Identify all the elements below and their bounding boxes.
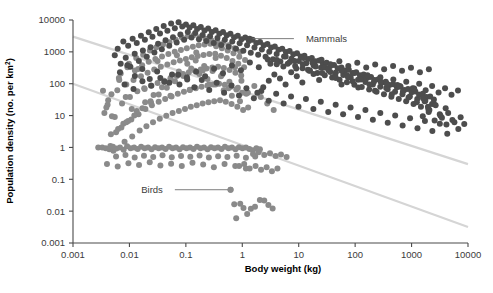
annotation-label-birds: Birds bbox=[141, 184, 163, 195]
data-point-mammals bbox=[221, 90, 227, 96]
data-point-birds bbox=[163, 113, 169, 119]
data-point-birds bbox=[181, 89, 187, 95]
data-point-mammals bbox=[149, 34, 155, 40]
data-point-birds bbox=[217, 97, 223, 103]
data-point-birds bbox=[162, 96, 168, 102]
y-tick-label: 10000 bbox=[39, 14, 65, 25]
annotation-label-mammals: Mammals bbox=[306, 33, 347, 44]
data-point-birds bbox=[233, 215, 239, 221]
data-point-mammals bbox=[260, 84, 266, 90]
data-point-mammals bbox=[202, 73, 208, 79]
data-point-birds bbox=[150, 154, 156, 160]
data-point-mammals bbox=[247, 60, 253, 66]
data-point-birds bbox=[229, 101, 235, 107]
annotation-marker bbox=[247, 36, 253, 42]
data-point-birds bbox=[141, 153, 147, 159]
data-point-mammals bbox=[229, 63, 235, 69]
data-point-mammals bbox=[355, 114, 361, 120]
data-point-birds bbox=[164, 62, 170, 68]
data-point-birds bbox=[252, 204, 258, 210]
data-point-mammals bbox=[157, 30, 163, 36]
data-point-mammals bbox=[288, 93, 294, 99]
data-point-birds bbox=[206, 81, 212, 87]
data-point-mammals bbox=[238, 67, 244, 73]
data-point-mammals bbox=[172, 25, 178, 31]
data-point-mammals bbox=[142, 37, 148, 43]
data-point-birds bbox=[100, 88, 106, 94]
data-point-birds bbox=[158, 64, 164, 70]
data-point-mammals bbox=[166, 80, 172, 86]
data-point-birds bbox=[206, 51, 212, 57]
data-point-mammals bbox=[455, 88, 461, 94]
data-point-mammals bbox=[316, 77, 322, 83]
data-point-birds bbox=[234, 104, 240, 110]
data-point-birds bbox=[221, 65, 227, 71]
data-point-birds bbox=[136, 162, 142, 168]
data-point-birds bbox=[157, 163, 163, 169]
data-point-mammals bbox=[295, 104, 301, 110]
data-point-mammals bbox=[193, 69, 199, 75]
x-tick-label: 10 bbox=[293, 249, 304, 260]
data-point-mammals bbox=[389, 91, 395, 97]
data-point-birds bbox=[241, 161, 247, 167]
data-point-mammals bbox=[294, 73, 300, 79]
data-point-mammals bbox=[120, 39, 126, 45]
data-point-mammals bbox=[364, 72, 370, 78]
data-point-birds bbox=[188, 66, 194, 72]
data-point-birds bbox=[213, 55, 219, 61]
data-point-mammals bbox=[184, 76, 190, 82]
data-point-mammals bbox=[177, 32, 183, 38]
data-point-mammals bbox=[392, 113, 398, 119]
data-point-birds bbox=[273, 153, 279, 159]
data-point-birds bbox=[253, 163, 259, 169]
data-point-mammals bbox=[134, 40, 140, 46]
data-point-mammals bbox=[130, 86, 136, 92]
data-point-mammals bbox=[381, 91, 387, 97]
data-point-mammals bbox=[266, 78, 272, 84]
data-point-birds bbox=[116, 77, 122, 83]
data-point-birds bbox=[237, 98, 243, 104]
data-point-birds bbox=[229, 93, 235, 99]
data-point-mammals bbox=[336, 58, 342, 64]
data-point-mammals bbox=[206, 87, 212, 93]
data-point-mammals bbox=[174, 40, 180, 46]
data-point-birds bbox=[190, 44, 196, 50]
data-point-mammals bbox=[255, 52, 261, 58]
data-point-birds bbox=[240, 205, 246, 211]
data-point-birds bbox=[165, 51, 171, 57]
data-point-birds bbox=[238, 78, 244, 84]
data-point-birds bbox=[142, 99, 148, 105]
data-point-mammals bbox=[248, 50, 254, 56]
data-point-mammals bbox=[306, 68, 312, 74]
data-point-birds bbox=[218, 53, 224, 59]
data-point-mammals bbox=[112, 52, 118, 58]
data-point-mammals bbox=[420, 113, 426, 119]
data-point-mammals bbox=[451, 119, 457, 125]
data-point-birds bbox=[108, 131, 114, 137]
data-point-birds bbox=[175, 91, 181, 97]
data-point-birds bbox=[132, 155, 138, 161]
data-point-mammals bbox=[400, 88, 406, 94]
data-point-mammals bbox=[461, 121, 467, 127]
data-point-birds bbox=[142, 86, 148, 92]
data-point-birds bbox=[206, 155, 212, 161]
data-point-mammals bbox=[300, 61, 306, 67]
data-point-mammals bbox=[181, 37, 187, 43]
data-point-mammals bbox=[136, 58, 142, 64]
data-point-birds bbox=[159, 53, 165, 59]
data-point-mammals bbox=[240, 48, 246, 54]
y-tick-label: 1000 bbox=[44, 46, 65, 57]
data-point-mammals bbox=[408, 65, 414, 71]
data-point-mammals bbox=[397, 83, 403, 89]
data-point-mammals bbox=[355, 85, 361, 91]
data-point-mammals bbox=[214, 80, 220, 86]
data-point-mammals bbox=[406, 94, 412, 100]
x-tick-label: 0.01 bbox=[120, 249, 139, 260]
data-point-mammals bbox=[163, 37, 169, 43]
data-point-birds bbox=[222, 161, 228, 167]
data-point-birds bbox=[137, 128, 143, 134]
y-tick-label: 0.1 bbox=[52, 174, 65, 185]
data-point-mammals bbox=[132, 51, 138, 57]
data-point-mammals bbox=[370, 117, 376, 123]
data-point-mammals bbox=[301, 55, 307, 61]
